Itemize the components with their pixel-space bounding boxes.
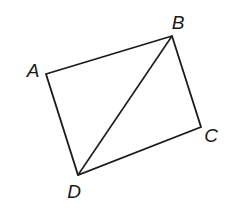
vertex-label-a: A	[26, 60, 40, 81]
vertex-label-c: C	[204, 125, 218, 146]
vertex-label-d: D	[67, 181, 81, 202]
diagonal-bd	[78, 36, 172, 175]
quadrilateral-abcd	[46, 36, 201, 175]
geometry-diagram: A B C D	[0, 0, 230, 212]
vertex-label-b: B	[172, 12, 185, 33]
